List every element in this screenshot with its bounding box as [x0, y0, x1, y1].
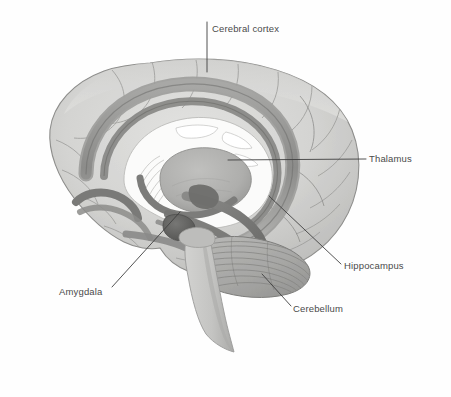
label-cerebral-cortex: Cerebral cortex [212, 24, 279, 34]
label-cerebellum: Cerebellum [293, 304, 343, 314]
label-amygdala: Amygdala [59, 287, 102, 297]
brain-illustration [0, 0, 451, 397]
label-thalamus: Thalamus [369, 154, 412, 164]
label-hippocampus: Hippocampus [344, 261, 404, 271]
brain-diagram-figure: Cerebral cortex Thalamus Hippocampus Amy… [0, 0, 451, 397]
